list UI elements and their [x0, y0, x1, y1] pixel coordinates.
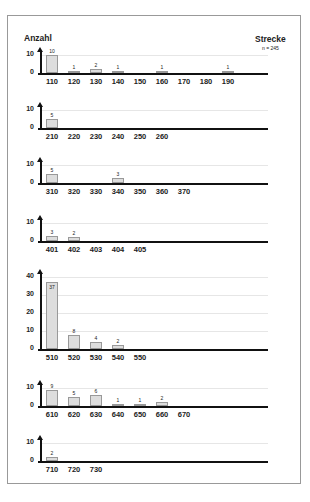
- bar-value-label: 1: [67, 64, 81, 70]
- sample-size: n = 245: [262, 45, 279, 51]
- y-tick-label: 10: [14, 160, 34, 167]
- gridline: [42, 388, 268, 389]
- x-tick-label: 620: [63, 410, 85, 419]
- x-tick-label: 230: [85, 132, 107, 141]
- bar: [46, 55, 58, 73]
- x-tick-label: 350: [129, 187, 151, 196]
- bar-value-label: 4: [89, 335, 103, 341]
- gridline: [42, 55, 268, 56]
- y-tick-label: 10: [14, 326, 34, 333]
- x-tick-label: 190: [217, 77, 239, 86]
- y-axis: [40, 439, 42, 462]
- bar-value-label: 2: [89, 62, 103, 68]
- y-axis-arrow-icon: [37, 215, 43, 220]
- x-tick-label: 660: [151, 410, 173, 419]
- bar: [46, 282, 58, 349]
- x-tick-label: 540: [107, 353, 129, 362]
- x-tick-label: 710: [41, 465, 63, 474]
- x-axis: [38, 128, 268, 130]
- bar-value-label: 2: [67, 230, 81, 236]
- bar: [46, 236, 58, 241]
- bar: [90, 342, 102, 349]
- bar: [90, 395, 102, 406]
- gridline: [42, 295, 268, 296]
- x-tick-label: 130: [85, 77, 107, 86]
- x-tick-label: 640: [107, 410, 129, 419]
- y-axis-arrow-icon: [37, 157, 43, 162]
- x-tick-label: 370: [173, 187, 195, 196]
- y-tick-label: 20: [14, 308, 34, 315]
- x-tick-label: 520: [63, 353, 85, 362]
- x-tick-label: 320: [63, 187, 85, 196]
- y-tick-label: 0: [14, 344, 34, 351]
- gridline: [42, 110, 268, 111]
- bar: [112, 71, 124, 73]
- y-axis: [40, 51, 42, 74]
- y-axis-arrow-icon: [37, 102, 43, 107]
- bar: [46, 119, 58, 128]
- bar: [46, 390, 58, 406]
- x-tick-label: 550: [129, 353, 151, 362]
- bar: [68, 71, 80, 73]
- y-tick-label: 10: [14, 50, 34, 57]
- x-tick-label: 170: [173, 77, 195, 86]
- y-tick-label: 0: [14, 456, 34, 463]
- y-axis: [40, 219, 42, 242]
- y-axis: [40, 106, 42, 129]
- x-tick-label: 510: [41, 353, 63, 362]
- bar-value-label: 1: [221, 64, 235, 70]
- bar-value-label: 1: [111, 64, 125, 70]
- x-tick-label: 210: [41, 132, 63, 141]
- x-axis: [38, 241, 268, 243]
- x-tick-label: 340: [107, 187, 129, 196]
- bar-value-label: 37: [45, 284, 59, 290]
- y-tick-label: 10: [14, 105, 34, 112]
- bar-value-label: 1: [155, 64, 169, 70]
- gridline: [42, 443, 268, 444]
- bar: [68, 237, 80, 241]
- bar: [156, 71, 168, 73]
- bar-value-label: 2: [111, 338, 125, 344]
- x-tick-label: 120: [63, 77, 85, 86]
- x-tick-label: 250: [129, 132, 151, 141]
- x-axis: [38, 406, 268, 408]
- x-tick-label: 220: [63, 132, 85, 141]
- bar-value-label: 8: [67, 328, 81, 334]
- y-tick-label: 0: [14, 123, 34, 130]
- y-tick-label: 10: [14, 383, 34, 390]
- x-tick-label: 140: [107, 77, 129, 86]
- x-tick-label: 240: [107, 132, 129, 141]
- x-tick-label: 720: [63, 465, 85, 474]
- x-tick-label: 630: [85, 410, 107, 419]
- x-tick-label: 150: [129, 77, 151, 86]
- y-tick-label: 30: [14, 290, 34, 297]
- bar: [134, 404, 146, 406]
- y-tick-label: 10: [14, 218, 34, 225]
- x-axis: [38, 349, 268, 351]
- bar: [68, 335, 80, 349]
- bar-value-label: 9: [45, 383, 59, 389]
- x-tick-label: 405: [129, 245, 151, 254]
- y-axis: [40, 161, 42, 184]
- x-tick-label: 160: [151, 77, 173, 86]
- bar: [222, 71, 234, 73]
- bar: [90, 69, 102, 73]
- x-tick-label: 650: [129, 410, 151, 419]
- bar-value-label: 5: [67, 390, 81, 396]
- x-tick-label: 530: [85, 353, 107, 362]
- bar-value-label: 5: [45, 167, 59, 173]
- bar-value-label: 1: [133, 397, 147, 403]
- gridline: [42, 277, 268, 278]
- x-tick-label: 310: [41, 187, 63, 196]
- gridline: [42, 223, 268, 224]
- bar: [46, 457, 58, 461]
- bar-value-label: 3: [45, 229, 59, 235]
- bar-value-label: 2: [155, 395, 169, 401]
- bar: [156, 402, 168, 406]
- bar-value-label: 2: [45, 450, 59, 456]
- x-axis: [38, 183, 268, 185]
- bar: [112, 345, 124, 349]
- bar-value-label: 5: [45, 112, 59, 118]
- chart-title: Strecke: [255, 34, 286, 44]
- y-axis-arrow-icon: [37, 380, 43, 385]
